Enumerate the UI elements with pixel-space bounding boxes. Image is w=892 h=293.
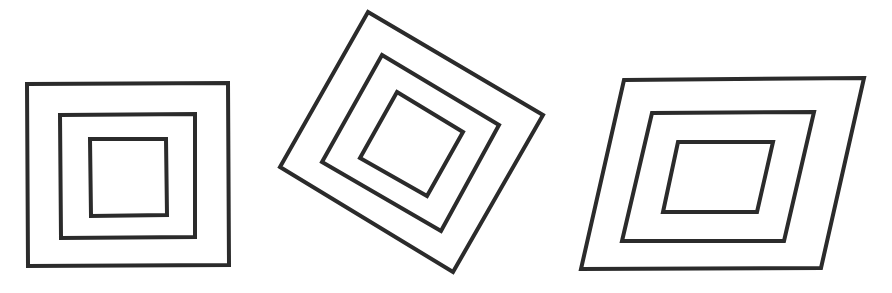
diagram-canvas — [0, 0, 892, 293]
background — [0, 0, 892, 293]
